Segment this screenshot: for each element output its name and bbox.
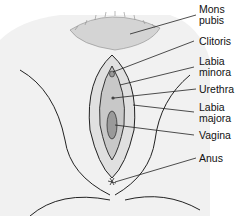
label-text: Clitoris xyxy=(199,36,231,47)
label-text: Vagina xyxy=(199,130,231,141)
label-text: Anus xyxy=(199,153,223,164)
label-labia-minora: Labia minora xyxy=(199,56,231,78)
label-text: pubis xyxy=(199,15,225,26)
label-text: minora xyxy=(199,67,231,78)
label-urethra: Urethra xyxy=(199,84,234,95)
anatomy-diagram: Mons pubis Clitoris Labia minora Urethra… xyxy=(0,0,235,216)
label-text: Urethra xyxy=(199,84,234,95)
label-labia-majora: Labia majora xyxy=(199,102,231,124)
label-vagina: Vagina xyxy=(199,130,231,141)
label-mons-pubis: Mons pubis xyxy=(199,4,225,26)
label-text: majora xyxy=(199,113,231,124)
label-clitoris: Clitoris xyxy=(199,36,231,47)
label-anus: Anus xyxy=(199,153,223,164)
